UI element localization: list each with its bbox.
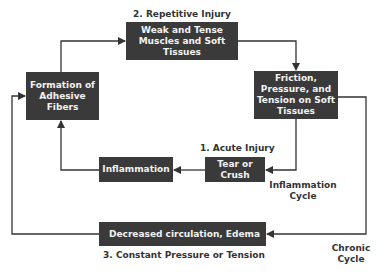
acute-injury-label: 1. Acute Injury bbox=[200, 143, 270, 154]
inflammation-node: Inflammation bbox=[99, 157, 173, 182]
tear-crush-node: Tear or Crush bbox=[205, 157, 265, 182]
weak-muscles-node: Weak and Tense Muscles and Soft Tissues bbox=[126, 22, 238, 60]
inflammation-cycle-label-1: Inflammation bbox=[268, 180, 338, 191]
repetitive-injury-label: 2. Repetitive Injury bbox=[126, 9, 238, 20]
formation-node: Formation of Adhesive Fibers bbox=[26, 72, 99, 120]
friction-node: Friction, Pressure, and Tension on Soft … bbox=[254, 71, 338, 119]
constant-pressure-label: 3. Constant Pressure or Tension bbox=[99, 250, 269, 261]
inflammation-cycle-label-2: Cycle bbox=[268, 191, 338, 202]
chronic-cycle-label-1: Chronic bbox=[326, 243, 376, 254]
chronic-cycle-label-2: Cycle bbox=[326, 254, 376, 265]
decreased-circulation-node: Decreased circulation, Edema bbox=[99, 222, 266, 246]
